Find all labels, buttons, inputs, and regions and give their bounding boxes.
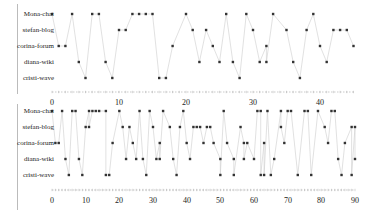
data-point — [337, 158, 339, 160]
data-point — [128, 126, 130, 128]
row-label-mona-chat: Mona-chat — [0, 107, 54, 115]
data-point — [307, 110, 309, 112]
data-point — [354, 126, 356, 128]
data-point — [148, 110, 150, 112]
data-point — [169, 126, 171, 128]
data-point — [135, 158, 137, 160]
data-point — [256, 110, 258, 112]
data-point — [327, 142, 329, 144]
data-point — [334, 110, 336, 112]
data-point — [71, 110, 73, 112]
data-point — [354, 158, 356, 160]
data-point — [125, 158, 127, 160]
data-point — [340, 174, 342, 176]
data-point — [219, 174, 221, 176]
data-point — [310, 174, 312, 176]
data-point — [179, 126, 181, 128]
data-point — [350, 126, 352, 128]
data-point — [132, 142, 134, 144]
data-point — [58, 142, 60, 144]
data-point — [108, 174, 110, 176]
x-tick-label: 20 — [115, 196, 123, 205]
data-point — [172, 158, 174, 160]
data-point — [175, 174, 177, 176]
x-tick-label: 40 — [183, 196, 191, 205]
data-point — [138, 110, 140, 112]
data-point — [152, 126, 154, 128]
data-point — [263, 142, 265, 144]
x-tick-label: 10 — [82, 196, 90, 205]
data-point — [78, 158, 80, 160]
data-point — [226, 142, 228, 144]
data-point — [290, 110, 292, 112]
data-point — [68, 174, 70, 176]
row-label-diana-wiki: diana-wiki — [0, 155, 54, 163]
x-tick-label: 50 — [216, 196, 224, 205]
data-point — [330, 110, 332, 112]
row-label-stefan-blog: stefan-blog — [0, 123, 54, 131]
data-point — [209, 126, 211, 128]
data-point — [266, 110, 268, 112]
data-point — [344, 142, 346, 144]
data-point — [286, 110, 288, 112]
data-point — [159, 158, 161, 160]
data-point — [74, 110, 76, 112]
data-point — [253, 158, 255, 160]
data-point — [142, 158, 144, 160]
data-point — [64, 158, 66, 160]
data-point — [118, 110, 120, 112]
data-point — [98, 110, 100, 112]
data-point — [189, 158, 191, 160]
data-point — [233, 174, 235, 176]
data-point — [111, 142, 113, 144]
data-point — [105, 174, 107, 176]
x-tick-label: 70 — [284, 196, 292, 205]
data-point — [185, 142, 187, 144]
data-point — [192, 126, 194, 128]
x-tick-label: 60 — [250, 196, 258, 205]
data-point — [105, 110, 107, 112]
bottom-chart: Mona-chat stefan-blog corina-forum diana… — [0, 0, 376, 221]
x-tick-label: 80 — [317, 196, 325, 205]
data-point — [162, 110, 164, 112]
data-point — [297, 174, 299, 176]
data-point — [155, 158, 157, 160]
data-point — [81, 174, 83, 176]
data-point — [260, 174, 262, 176]
data-point — [350, 174, 352, 176]
row-label-cristi-wave: cristi-wave — [0, 171, 54, 179]
data-point — [182, 110, 184, 112]
data-point — [88, 126, 90, 128]
data-point — [280, 110, 282, 112]
data-point — [212, 142, 214, 144]
data-point — [246, 142, 248, 144]
data-point — [283, 142, 285, 144]
data-point — [88, 110, 90, 112]
data-point — [159, 142, 161, 144]
row-label-corina-forum: corina-forum — [0, 139, 54, 147]
data-point — [122, 126, 124, 128]
data-point — [61, 110, 63, 112]
data-point — [273, 158, 275, 160]
data-point — [233, 158, 235, 160]
x-tick-label: 0 — [50, 196, 54, 205]
data-point — [196, 126, 198, 128]
data-point — [223, 110, 225, 112]
data-point — [243, 142, 245, 144]
data-point — [145, 174, 147, 176]
data-point — [317, 110, 319, 112]
data-point — [219, 158, 221, 160]
data-point — [303, 110, 305, 112]
data-point — [324, 126, 326, 128]
data-point — [280, 126, 282, 128]
data-point — [263, 174, 265, 176]
data-point — [206, 126, 208, 128]
data-point — [260, 110, 262, 112]
data-point — [199, 126, 201, 128]
data-point — [95, 110, 97, 112]
data-point — [91, 110, 93, 112]
data-point — [243, 158, 245, 160]
x-tick-label: 90 — [351, 196, 359, 205]
bottom-chart-plot — [0, 0, 376, 221]
data-point — [239, 126, 241, 128]
